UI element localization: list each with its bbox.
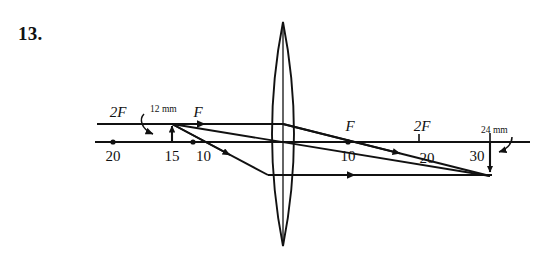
label-right-2f: 2F [414, 118, 432, 134]
scale-right-10: 10 [341, 148, 356, 164]
label-left-f: F [192, 104, 203, 120]
image-size-label: 24 mm [481, 125, 508, 135]
label-left-2f: 2F [110, 104, 128, 120]
two-f-left-point [110, 139, 115, 144]
scale-left-20: 20 [106, 148, 121, 164]
converging-lens [272, 22, 294, 246]
scale-left-15: 15 [165, 148, 180, 164]
image-callout-leader [499, 137, 512, 152]
f-left-point [190, 139, 195, 144]
object-size-label: 12 mm [150, 104, 177, 114]
diagram-canvas: 13. [0, 0, 547, 257]
ray-diagram-svg: 2F F 20 15 10 F 2F 10 20 30 12 mm 24 mm [0, 0, 547, 257]
label-right-f: F [344, 118, 355, 134]
scale-left-10: 10 [196, 148, 211, 164]
scale-right-20: 20 [420, 150, 435, 166]
scale-right-30: 30 [470, 148, 485, 164]
